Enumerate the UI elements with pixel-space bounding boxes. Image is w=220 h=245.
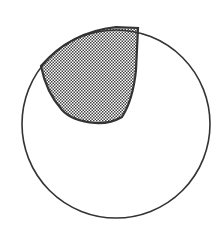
diagram-canvas xyxy=(0,0,220,245)
shaded-region xyxy=(41,27,138,123)
